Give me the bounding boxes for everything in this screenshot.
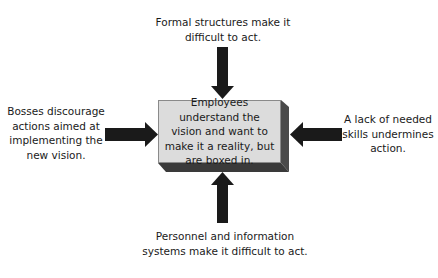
central-box-text: Employees understand the vision and want… <box>163 95 276 168</box>
barrier-label-right: A lack of needed skills undermines actio… <box>338 112 438 156</box>
central-box: Employees understand the vision and want… <box>158 100 289 172</box>
arrow-left-icon <box>290 122 342 147</box>
barrier-label-left: Bosses discourage actions aimed at imple… <box>0 104 112 162</box>
barrier-label-top: Formal structures make it difficult to a… <box>140 15 306 44</box>
central-box-face: Employees understand the vision and want… <box>158 100 281 163</box>
arrow-up-icon <box>211 172 234 223</box>
arrow-down-icon <box>211 47 234 99</box>
barrier-label-bottom: Personnel and information systems make i… <box>140 229 310 258</box>
arrow-right-icon <box>105 122 158 147</box>
